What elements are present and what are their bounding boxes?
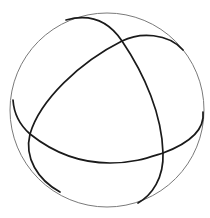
sphere-diagram: [0, 0, 210, 218]
great-circle-b: [29, 35, 183, 192]
